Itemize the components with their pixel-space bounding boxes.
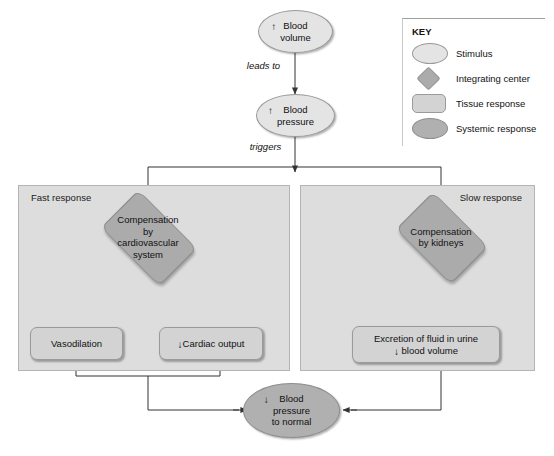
key-item-systemic-response: Systemic response — [412, 116, 545, 141]
systemic-response-swatch-icon — [412, 118, 448, 139]
panel-fast-response-label: Fast response — [31, 192, 91, 203]
key-legend: KEY Stimulus Integrating center Tissue r… — [402, 18, 545, 146]
key-item-integrating-center-label: Integrating center — [456, 73, 530, 84]
cardiovascular-line2: by — [143, 226, 153, 237]
blood-volume-line2: volume — [280, 32, 311, 43]
blood-volume-up-arrow: ↑ — [271, 22, 276, 32]
node-vasodilation: Vasodilation — [30, 327, 123, 360]
key-item-integrating-center: Integrating center — [412, 66, 545, 91]
stimulus-swatch-icon — [412, 43, 448, 64]
edge-label-triggers: triggers — [238, 141, 293, 152]
node-blood-volume: ↑ Blood volume — [258, 10, 333, 53]
node-bp-to-normal: ↓ Blood pressure to normal — [243, 383, 340, 438]
bp-normal-line3: to normal — [272, 416, 312, 427]
key-item-stimulus: Stimulus — [412, 41, 545, 66]
integrating-center-swatch-icon — [412, 68, 448, 89]
cardiovascular-line1: Compensation — [117, 214, 178, 225]
key-item-systemic-response-label: Systemic response — [456, 123, 536, 134]
tissue-response-swatch-icon — [412, 93, 448, 114]
vasodilation-label: Vasodilation — [51, 338, 102, 350]
cardiac-output-down-arrow: ↓ — [178, 340, 183, 350]
kidney-line2: by kidneys — [419, 237, 464, 248]
cardiovascular-line4: system — [133, 249, 163, 260]
blood-pressure-up-arrow: ↑ — [268, 106, 273, 116]
node-cardiac-output: ↓Cardiac output — [159, 327, 263, 360]
bp-normal-down-arrow: ↓ — [264, 395, 269, 405]
key-item-tissue-response: Tissue response — [412, 91, 545, 116]
bp-normal-line1: Blood — [279, 393, 303, 404]
blood-pressure-line2: pressure — [277, 116, 314, 127]
key-item-tissue-response-label: Tissue response — [456, 98, 525, 109]
excretion-line1: Excretion of fluid in urine — [374, 333, 478, 344]
node-cardiovascular-compensation: Compensation by cardiovascular system — [88, 198, 208, 276]
key-title: KEY — [412, 26, 545, 37]
excretion-down-arrow: ↓ — [394, 347, 399, 357]
bp-normal-line2: pressure — [273, 405, 310, 416]
key-item-stimulus-label: Stimulus — [456, 48, 492, 59]
blood-volume-line1: Blood — [283, 20, 307, 31]
cardiovascular-line3: cardiovascular — [117, 237, 178, 248]
node-kidney-compensation: Compensation by kidneys — [383, 198, 499, 276]
kidney-line1: Compensation — [410, 226, 471, 237]
cardiac-output-label: Cardiac output — [183, 338, 245, 349]
flowchart-figure: Fast response Slow response ↑ Blood volu… — [0, 0, 554, 456]
blood-pressure-line1: Blood — [283, 104, 307, 115]
excretion-line2: blood volume — [402, 345, 459, 356]
edge-label-leads-to: leads to — [236, 60, 291, 71]
node-blood-pressure: ↑ Blood pressure — [256, 94, 335, 137]
node-excretion: Excretion of fluid in urine ↓ blood volu… — [352, 326, 500, 363]
